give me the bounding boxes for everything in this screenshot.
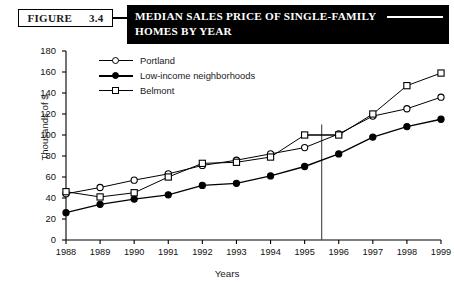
data-point-low-income-neighborhoods (233, 180, 239, 186)
figure-number: 3.4 (89, 12, 104, 24)
data-point-low-income-neighborhoods (267, 173, 273, 179)
data-point-belmont (370, 111, 376, 117)
figure-title-line-2: HOMES BY YEAR (135, 24, 449, 39)
figure-word: FIGURE (27, 12, 72, 24)
figure-title-band: MEDIAN SALES PRICE OF SINGLE-FAMILY HOME… (127, 5, 449, 44)
legend-swatch-belmont (99, 85, 133, 96)
legend-item-belmont: Belmont (99, 83, 255, 98)
data-point-low-income-neighborhoods (438, 116, 444, 122)
data-point-low-income-neighborhoods (302, 163, 308, 169)
figure-number-box: FIGURE 3.4 (18, 9, 113, 27)
data-point-low-income-neighborhoods (131, 196, 137, 202)
data-point-portland (97, 184, 103, 190)
line-chart: Thousands of $ Years Portland Low-income… (0, 46, 454, 284)
data-point-low-income-neighborhoods (370, 134, 376, 140)
figure-header: FIGURE 3.4 MEDIAN SALES PRICE OF SINGLE-… (0, 0, 454, 46)
legend-label-low-income: Low-income neighborhoods (140, 70, 255, 81)
legend-swatch-portland (99, 55, 133, 66)
data-point-portland (131, 177, 137, 183)
data-point-portland (404, 106, 410, 112)
y-axis-tick-label: 40 (26, 192, 56, 203)
x-axis-title: Years (0, 268, 454, 279)
chart-legend: Portland Low-income neighborhoods Belmon… (99, 53, 255, 98)
y-axis-tick-label: 100 (26, 129, 56, 140)
series-line-low-income-neighborhoods (66, 119, 441, 212)
data-point-belmont (199, 160, 205, 166)
data-point-low-income-neighborhoods (97, 201, 103, 207)
data-point-portland (438, 94, 444, 100)
data-point-portland (302, 145, 308, 151)
y-axis-tick-label: 20 (26, 213, 56, 224)
y-axis-tick-label: 80 (26, 150, 56, 161)
legend-swatch-low-income (99, 70, 133, 81)
legend-item-low-income: Low-income neighborhoods (99, 68, 255, 83)
x-axis-tick-label: 1999 (421, 247, 454, 257)
data-point-low-income-neighborhoods (336, 151, 342, 157)
data-point-belmont (438, 70, 444, 76)
y-axis-tick-label: 180 (26, 45, 56, 56)
y-axis-tick-label: 120 (26, 108, 56, 119)
data-point-belmont (97, 194, 103, 200)
data-point-belmont (336, 132, 342, 138)
data-point-belmont (165, 174, 171, 180)
title-decorative-rule (387, 16, 443, 18)
data-point-belmont (404, 83, 410, 89)
y-axis-tick-label: 60 (26, 171, 56, 182)
filled-circle-icon (112, 72, 119, 79)
open-square-icon (112, 87, 119, 94)
figure-connector-rule (113, 17, 128, 19)
y-axis-tick-label: 0 (26, 234, 56, 245)
legend-label-belmont: Belmont (140, 85, 174, 96)
data-point-low-income-neighborhoods (199, 182, 205, 188)
data-point-belmont (302, 132, 308, 138)
data-point-low-income-neighborhoods (165, 192, 171, 198)
legend-label-portland: Portland (140, 55, 175, 66)
data-point-belmont (131, 190, 137, 196)
open-circle-icon (112, 57, 119, 64)
data-point-low-income-neighborhoods (63, 210, 69, 216)
legend-item-portland: Portland (99, 53, 255, 68)
y-axis-tick-label: 140 (26, 87, 56, 98)
y-axis-tick-label: 160 (26, 66, 56, 77)
data-point-belmont (267, 154, 273, 160)
data-point-low-income-neighborhoods (404, 124, 410, 130)
data-point-belmont (233, 159, 239, 165)
data-point-belmont (63, 189, 69, 195)
